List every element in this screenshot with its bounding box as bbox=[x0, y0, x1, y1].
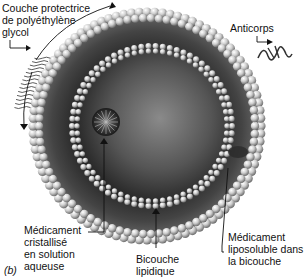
lipophilic-drug bbox=[228, 146, 248, 158]
antibody-icon bbox=[258, 47, 292, 60]
panel-label: (b) bbox=[4, 264, 17, 276]
label-drug-aqueous: Médicament cristallisé en solution aqueu… bbox=[24, 224, 81, 272]
label-drug-lipophilic: Médicament liposoluble dans la bicouche bbox=[228, 231, 303, 267]
antibody-branch bbox=[268, 46, 279, 58]
label-bilayer: Bicouche lipidique bbox=[136, 253, 179, 277]
label-antibody: Anticorps bbox=[230, 22, 274, 34]
crystallized-drug bbox=[92, 108, 120, 136]
label-peg-layer: Couche protectrice de polyéthylène glyco… bbox=[2, 2, 90, 38]
